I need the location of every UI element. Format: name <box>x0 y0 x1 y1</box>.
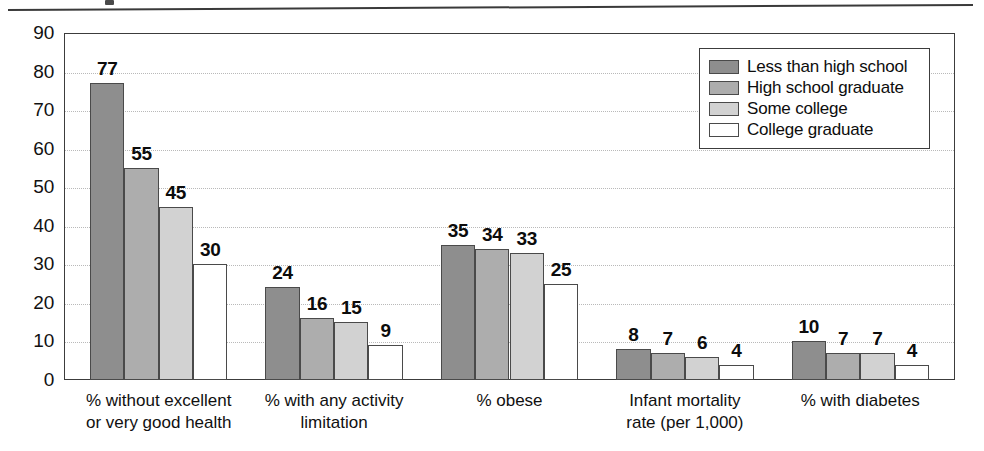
y-tick-label: 10 <box>0 330 54 352</box>
bar <box>334 322 368 380</box>
bar-value-label: 33 <box>510 228 544 250</box>
top-horizontal-rule <box>8 4 973 11</box>
legend-swatch-icon <box>709 102 739 116</box>
bar <box>826 353 860 380</box>
bar-value-label: 35 <box>441 220 475 242</box>
legend-label: College graduate <box>747 120 873 140</box>
bar-value-label: 7 <box>826 328 860 350</box>
bar-value-label: 4 <box>719 340 753 362</box>
bar <box>685 357 719 380</box>
y-tick-label: 80 <box>0 61 54 83</box>
bar <box>651 353 685 380</box>
legend-label: Less than high school <box>747 57 907 77</box>
bar <box>475 249 509 380</box>
bar <box>368 345 402 380</box>
bar <box>544 284 578 380</box>
bar-value-label: 24 <box>265 262 299 284</box>
legend-item: Less than high school <box>709 56 920 77</box>
bar <box>860 353 894 380</box>
bar-value-label: 10 <box>792 316 826 338</box>
bar-value-label: 77 <box>90 58 124 80</box>
bar <box>441 245 475 380</box>
legend-swatch-icon <box>709 81 739 95</box>
legend-swatch-icon <box>709 123 739 137</box>
bar-value-label: 55 <box>124 143 158 165</box>
bar <box>616 349 650 380</box>
bar <box>895 365 929 380</box>
legend-item: College graduate <box>709 119 920 140</box>
y-tick-label: 90 <box>0 22 54 44</box>
bar-value-label: 7 <box>860 328 894 350</box>
y-tick-label: 0 <box>0 369 54 391</box>
bar <box>90 83 124 380</box>
legend-swatch-icon <box>709 60 739 74</box>
bar-value-label: 7 <box>651 328 685 350</box>
bar-value-label: 34 <box>475 224 509 246</box>
bar-value-label: 25 <box>544 259 578 281</box>
bar-value-label: 45 <box>159 182 193 204</box>
legend-item: High school graduate <box>709 77 920 98</box>
y-tick-label: 70 <box>0 99 54 121</box>
bar-value-label: 9 <box>368 320 402 342</box>
y-tick-label: 50 <box>0 176 54 198</box>
legend-label: High school graduate <box>747 78 904 98</box>
bar <box>300 318 334 380</box>
bar <box>719 365 753 380</box>
bar-value-label: 8 <box>616 324 650 346</box>
bar <box>792 341 826 380</box>
bar <box>124 168 158 380</box>
bar <box>193 264 227 380</box>
legend-label: Some college <box>747 99 848 119</box>
bar-value-label: 15 <box>334 297 368 319</box>
bar-value-label: 6 <box>685 332 719 354</box>
bar-value-label: 16 <box>300 293 334 315</box>
bar-value-label: 4 <box>895 340 929 362</box>
category-label: % with diabetes <box>758 390 963 412</box>
bar-value-label: 30 <box>193 239 227 261</box>
y-tick-label: 20 <box>0 292 54 314</box>
legend-item: Some college <box>709 98 920 119</box>
bar <box>159 207 193 381</box>
legend: Less than high schoolHigh school graduat… <box>699 48 930 149</box>
chart-figure: 0102030405060708090 Percent 775545302416… <box>0 0 984 451</box>
y-tick-label: 40 <box>0 215 54 237</box>
bar <box>265 287 299 380</box>
y-tick-label: 30 <box>0 253 54 275</box>
cropped-title-fragment <box>105 0 114 5</box>
bar <box>510 253 544 380</box>
y-tick-label: 60 <box>0 138 54 160</box>
